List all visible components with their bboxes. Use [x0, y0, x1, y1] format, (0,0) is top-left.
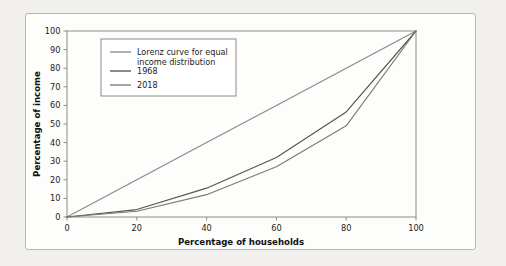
- legend-label-1: 1968: [137, 66, 158, 76]
- y-axis-title: Percentage of income: [32, 71, 42, 177]
- figure-panel: 020406080100 0102030405060708090100 Perc…: [25, 13, 476, 250]
- legend-label-2: 2018: [137, 80, 158, 90]
- y-tick-label-0: 0: [55, 212, 60, 222]
- legend-label-0: Lorenz curve for equal: [137, 47, 228, 57]
- y-tick-label-60: 60: [50, 100, 60, 110]
- chart-legend: Lorenz curve for equalincome distributio…: [101, 39, 236, 96]
- x-tick-label-80: 80: [341, 223, 351, 233]
- y-tick-label-40: 40: [50, 138, 60, 148]
- y-tick-label-70: 70: [50, 82, 60, 92]
- y-tick-label-50: 50: [50, 119, 60, 129]
- y-tick-label-10: 10: [50, 193, 60, 203]
- y-tick-label-30: 30: [50, 156, 60, 166]
- y-tick-label-100: 100: [45, 26, 61, 36]
- chart-canvas: 020406080100 0102030405060708090100 Perc…: [26, 14, 477, 251]
- y-tick-label-20: 20: [50, 175, 60, 185]
- x-axis-title: Percentage of households: [178, 237, 304, 247]
- lorenz-curve-chart: 020406080100 0102030405060708090100 Perc…: [26, 14, 477, 251]
- x-tick-label-0: 0: [64, 223, 69, 233]
- y-axis-ticks: [64, 31, 68, 217]
- x-axis-ticks: [67, 217, 416, 221]
- x-tick-label-20: 20: [132, 223, 142, 233]
- x-tick-label-100: 100: [408, 223, 424, 233]
- x-axis-tick-labels: 020406080100: [64, 223, 423, 233]
- x-tick-label-40: 40: [201, 223, 211, 233]
- y-tick-label-90: 90: [50, 45, 60, 55]
- x-tick-label-60: 60: [271, 223, 281, 233]
- y-axis-tick-labels: 0102030405060708090100: [45, 26, 61, 222]
- y-tick-label-80: 80: [50, 63, 60, 73]
